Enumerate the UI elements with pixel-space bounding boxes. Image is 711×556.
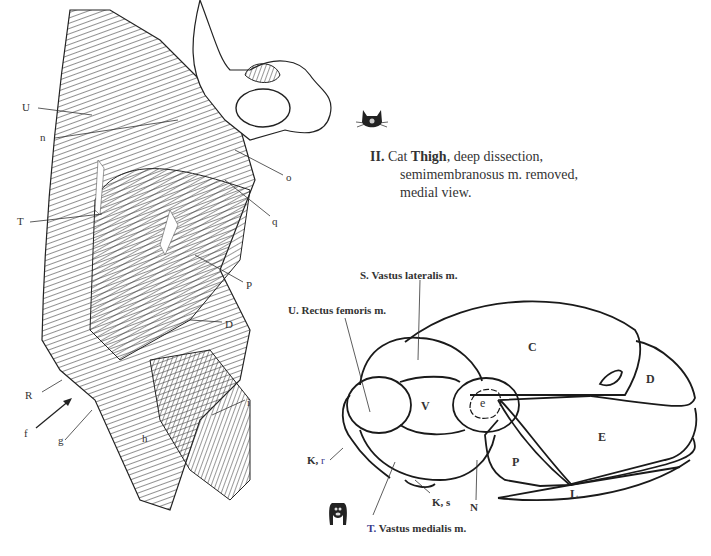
label-g: g xyxy=(58,435,64,446)
label-vastus-lateralis: S. Vastus lateralis m. xyxy=(360,270,458,281)
label-R: R xyxy=(25,390,32,401)
label-U: U xyxy=(22,102,30,113)
label-vastus-medialis: T. Vastus medialis m. xyxy=(367,523,466,534)
segment-V: V xyxy=(421,399,430,414)
label-N: N xyxy=(470,502,478,513)
label-i: i xyxy=(247,397,250,408)
label-P: P xyxy=(246,280,252,291)
arrow-f-icon xyxy=(36,400,70,428)
label-o: o xyxy=(286,172,292,183)
segment-C: C xyxy=(528,340,537,355)
dog-head-icon xyxy=(329,503,347,525)
segment-e: e xyxy=(480,396,485,411)
segment-L: L xyxy=(570,487,578,502)
segment-P: P xyxy=(512,455,519,470)
label-K-s: K, s xyxy=(432,497,450,508)
label-f: f xyxy=(24,428,28,439)
label-n: n xyxy=(40,132,46,143)
cat-head-icon xyxy=(356,110,388,127)
cross-section-diagram xyxy=(343,301,697,500)
segment-D: D xyxy=(646,372,655,387)
thigh-muscle-illustration xyxy=(0,0,711,556)
label-rectus-femoris: U. Rectus femoris m. xyxy=(288,305,386,316)
label-K-r: K, r xyxy=(307,455,325,466)
segment-E: E xyxy=(598,430,606,445)
label-h: h xyxy=(142,433,148,444)
label-T: T xyxy=(17,216,24,227)
figure-caption: II. Cat Thigh, deep dissection, semimemb… xyxy=(370,148,578,202)
label-D: D xyxy=(225,319,233,330)
label-q: q xyxy=(272,216,278,227)
